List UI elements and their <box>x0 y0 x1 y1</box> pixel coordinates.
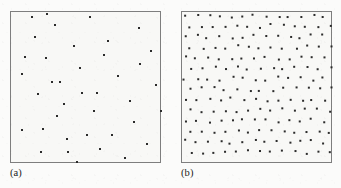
data-point <box>295 150 297 152</box>
data-point <box>329 151 331 153</box>
data-point <box>307 66 309 68</box>
data-point <box>42 128 44 130</box>
data-point <box>324 100 326 102</box>
data-point <box>232 37 234 39</box>
data-point <box>63 103 65 105</box>
data-point <box>329 111 331 113</box>
data-point <box>209 14 211 16</box>
data-point <box>300 16 302 18</box>
data-point <box>237 65 239 67</box>
data-point <box>331 66 333 68</box>
data-point <box>282 87 284 89</box>
data-point <box>56 115 58 117</box>
data-point <box>34 36 36 38</box>
data-point <box>238 129 240 131</box>
data-point <box>79 67 81 69</box>
data-point <box>294 25 296 27</box>
data-point <box>263 141 265 143</box>
data-point <box>277 76 279 78</box>
data-point <box>305 131 307 133</box>
data-point <box>257 47 259 49</box>
panel-b-label: (b) <box>181 168 194 179</box>
data-point <box>218 58 220 60</box>
data-point <box>220 99 222 101</box>
data-point <box>188 47 190 49</box>
data-point <box>313 14 315 16</box>
data-point <box>67 151 69 153</box>
data-point <box>103 54 105 56</box>
data-point <box>124 157 126 159</box>
data-point <box>269 110 271 112</box>
data-point <box>160 110 162 112</box>
data-point <box>278 121 280 123</box>
data-point <box>201 86 203 88</box>
data-point <box>284 130 286 132</box>
data-point <box>277 35 279 37</box>
data-point <box>24 56 26 58</box>
data-point <box>203 48 205 50</box>
data-point <box>246 26 248 28</box>
data-point <box>293 66 295 68</box>
data-point <box>185 121 187 123</box>
data-point <box>306 45 308 47</box>
data-point <box>224 151 226 153</box>
data-point <box>54 24 56 26</box>
data-point <box>283 24 285 26</box>
data-point <box>281 68 283 70</box>
plot-box-b[interactable] <box>181 11 332 163</box>
data-point <box>247 132 249 134</box>
data-point <box>258 129 260 131</box>
data-point <box>331 45 333 47</box>
data-point <box>225 110 227 112</box>
data-point <box>51 81 53 83</box>
data-point <box>209 122 211 124</box>
scatter-plot-b <box>182 12 333 164</box>
data-point <box>212 26 214 28</box>
data-point <box>279 16 281 18</box>
data-point <box>247 149 249 151</box>
data-point <box>37 93 39 95</box>
data-point <box>197 34 199 36</box>
data-point <box>269 47 271 49</box>
data-point <box>231 58 233 60</box>
data-point <box>183 79 185 81</box>
data-point <box>46 13 48 15</box>
data-point <box>191 152 193 154</box>
data-point <box>212 152 214 154</box>
data-point <box>73 45 75 47</box>
plot-box-a[interactable] <box>10 11 161 163</box>
data-point <box>259 108 261 110</box>
data-point <box>255 139 257 141</box>
data-point <box>207 57 209 59</box>
data-point <box>185 55 187 57</box>
data-point <box>232 119 234 121</box>
data-point <box>328 132 330 134</box>
data-point <box>242 37 244 39</box>
data-point <box>190 68 192 70</box>
data-point <box>317 68 319 70</box>
data-point <box>89 16 91 18</box>
data-point <box>214 132 216 134</box>
data-point <box>260 68 262 70</box>
data-point <box>287 16 289 18</box>
data-point <box>312 80 314 82</box>
data-point <box>281 107 283 109</box>
data-point <box>76 161 78 163</box>
data-point <box>241 118 243 120</box>
data-point <box>278 59 280 61</box>
data-point <box>185 99 187 101</box>
data-point <box>281 48 283 50</box>
data-point <box>146 143 148 145</box>
data-point <box>133 121 135 123</box>
data-point <box>155 84 157 86</box>
data-point <box>308 87 310 89</box>
data-point <box>254 118 256 120</box>
data-point <box>138 27 140 29</box>
data-point <box>264 56 266 58</box>
data-point <box>255 98 257 100</box>
data-point <box>225 68 227 70</box>
data-point <box>296 48 298 50</box>
data-point <box>221 140 223 142</box>
data-point <box>252 34 254 36</box>
data-point <box>298 37 300 39</box>
